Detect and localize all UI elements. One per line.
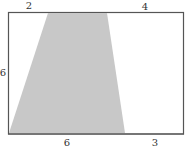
label-left: 6 <box>0 67 6 78</box>
diagram: 2 4 6 6 3 <box>0 0 185 148</box>
label-bottom-right: 3 <box>152 137 158 148</box>
label-bottom-left: 6 <box>64 137 70 148</box>
label-top-right: 4 <box>142 1 148 12</box>
label-top-left: 2 <box>26 0 32 11</box>
